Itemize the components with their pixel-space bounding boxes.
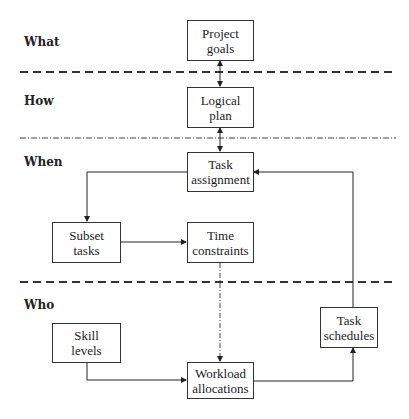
node-logical-plan: Logical plan — [187, 87, 254, 128]
edge-skill-workload — [87, 363, 186, 380]
node-task-assignment: Task assignment — [187, 152, 254, 192]
node-workload-allocations: Workload allocations — [187, 362, 254, 399]
lane-label-how: How — [24, 94, 54, 108]
node-time-constraints: Time constraints — [187, 222, 254, 263]
lane-label-who: Who — [24, 298, 54, 312]
node-project-goals: Project goals — [187, 20, 254, 61]
node-task-schedules: Task schedules — [320, 307, 378, 348]
edge-assignment-subset — [87, 172, 187, 221]
node-subset-tasks: Subset tasks — [52, 222, 121, 263]
node-skill-levels: Skill levels — [52, 323, 121, 363]
lane-label-what: What — [24, 35, 60, 49]
edge-schedules-assignment — [254, 172, 353, 307]
lane-label-when: When — [24, 155, 63, 169]
edge-workload-schedules — [254, 348, 353, 381]
